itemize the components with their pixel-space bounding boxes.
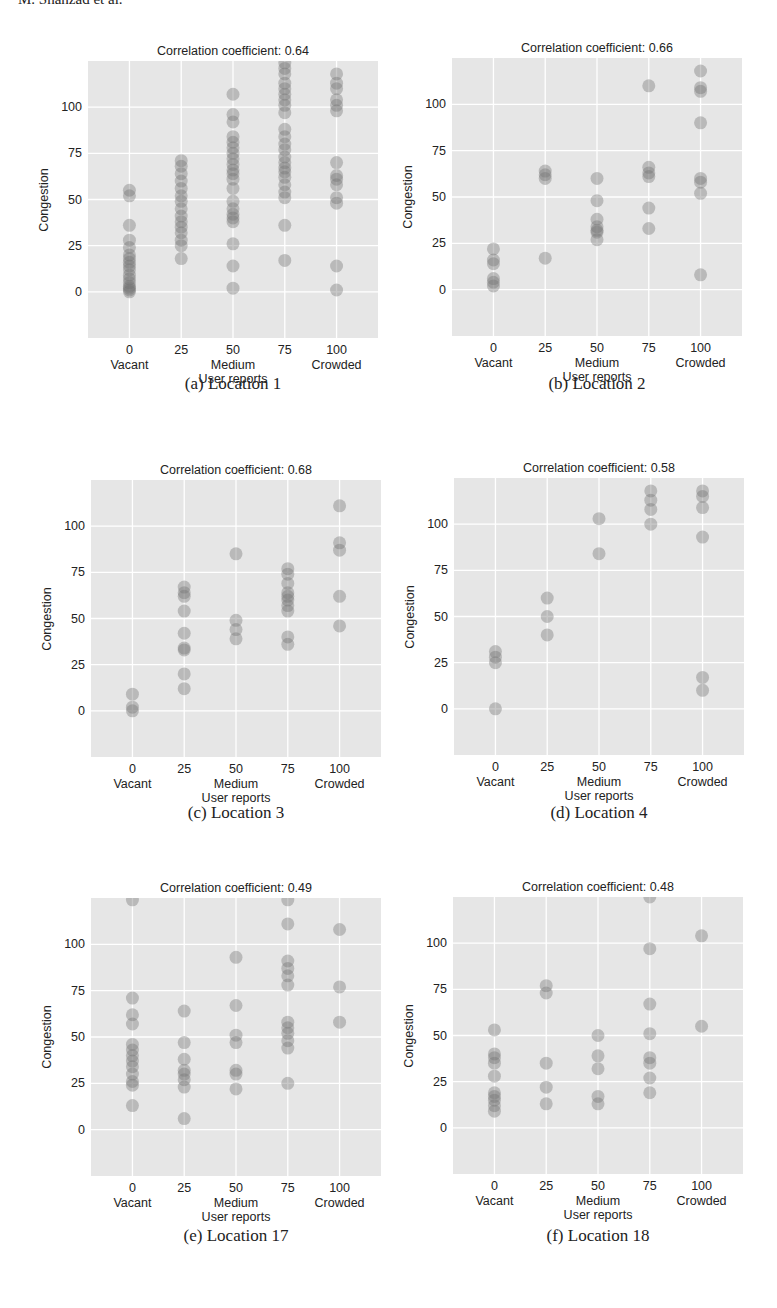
data-point [227,130,240,143]
data-point [230,951,243,964]
data-point [227,108,240,121]
x-tick-category: Crowded [310,777,370,792]
data-point [488,1086,501,1099]
x-tick-category: Medium [568,1194,628,1209]
data-point [695,1020,708,1033]
page-header-fragment: M. Shahzad et al. [18,0,123,8]
data-point [175,252,188,265]
y-tick-label: 25 [55,1076,85,1090]
data-point [540,1081,553,1094]
x-axis-label: User reports [202,1210,271,1224]
data-point [696,671,709,684]
figure-caption: (b) Location 2 [548,374,645,394]
data-point [593,547,606,560]
chart-title: Correlation coefficient: 0.66 [521,41,673,55]
data-point [694,64,707,77]
y-tick-label: 75 [418,563,448,577]
data-point [539,252,552,265]
data-point [540,1097,553,1110]
data-point [592,1049,605,1062]
data-point [178,667,191,680]
data-point [488,1047,501,1060]
x-tick-value: 100 [673,760,733,775]
y-tick-label: 25 [418,656,448,670]
data-point [230,614,243,627]
data-point [489,645,502,658]
y-tick-label: 50 [55,1030,85,1044]
x-axis-label: User reports [565,789,634,803]
figure-caption: (c) Location 3 [188,803,284,823]
x-tick-value: 100 [310,1181,370,1196]
data-point [643,942,656,955]
data-point [330,191,343,204]
data-point [178,627,191,640]
x-tick-category: Crowded [672,1194,732,1209]
data-point [488,1070,501,1083]
data-point [696,484,709,497]
x-tick-value: 100 [672,1179,732,1194]
scatter-plot-area [91,480,381,757]
data-point [126,1099,139,1112]
data-point [281,917,294,930]
data-point [541,592,554,605]
data-point [643,1027,656,1040]
y-tick-label: 0 [416,283,446,297]
y-tick-label: 75 [55,984,85,998]
y-tick-label: 75 [55,565,85,579]
y-tick-label: 100 [52,100,82,114]
data-point [178,605,191,618]
data-point [227,237,240,250]
data-point [696,531,709,544]
data-point [126,1008,139,1021]
data-point [696,501,709,514]
data-point [333,1016,346,1029]
chart-title: Correlation coefficient: 0.48 [522,880,674,894]
x-tick-category: Crowded [671,356,731,371]
x-tick-category: Crowded [307,358,367,373]
data-point [333,499,346,512]
data-point [330,169,343,182]
x-tick-category: Medium [206,777,266,792]
data-point [694,116,707,129]
data-point [175,154,188,167]
data-point [178,581,191,594]
y-tick-label: 100 [55,937,85,951]
data-point [694,268,707,281]
data-point [330,259,343,272]
data-point [488,1023,501,1036]
x-tick-label: 100Crowded [310,1181,370,1211]
chart-title: Correlation coefficient: 0.49 [160,881,312,895]
y-tick-label: 100 [416,97,446,111]
y-tick-label: 50 [417,1029,447,1043]
x-tick-category: Crowded [310,1196,370,1211]
y-tick-label: 75 [52,146,82,160]
y-tick-label: 75 [417,982,447,996]
x-tick-category: Medium [567,356,627,371]
data-point [333,619,346,632]
y-tick-label: 100 [418,517,448,531]
data-point [123,184,136,197]
data-point [330,283,343,296]
y-tick-label: 25 [417,1075,447,1089]
data-point [126,688,139,701]
x-tick-label: 100Crowded [671,341,731,371]
y-axis-label: Congestion [40,1005,54,1068]
y-tick-label: 25 [55,658,85,672]
data-point [540,1057,553,1070]
data-point [333,536,346,549]
x-tick-value: 100 [307,343,367,358]
data-point [278,254,291,267]
data-point [230,1029,243,1042]
y-tick-label: 50 [418,610,448,624]
y-tick-label: 0 [55,1123,85,1137]
data-point [696,684,709,697]
x-tick-category: Vacant [463,356,523,371]
figure-caption: (f) Location 18 [547,1226,650,1246]
x-tick-value: 100 [671,341,731,356]
data-point [333,980,346,993]
data-point [178,1036,191,1049]
data-point [278,219,291,232]
data-point [123,234,136,247]
data-point [644,484,657,497]
x-tick-category: Medium [203,358,263,373]
